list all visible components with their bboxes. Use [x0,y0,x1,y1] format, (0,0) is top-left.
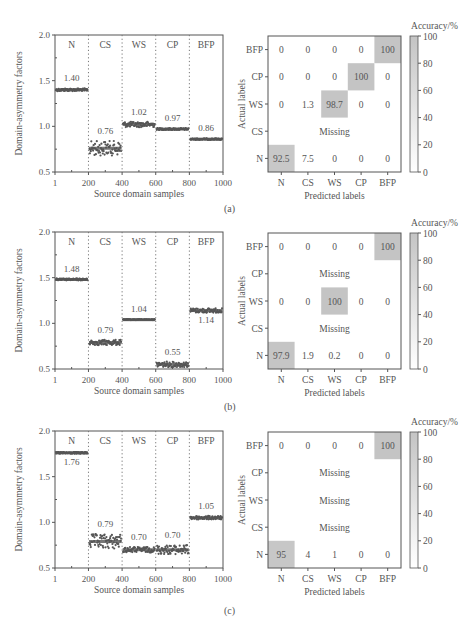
y-tick-label: 1.0 [39,517,51,527]
heatmap-cell-value: 98.7 [326,100,343,110]
segment-name-label: N [68,40,75,50]
segment-name-label: BFP [198,436,215,446]
colorbar-tick-label: 40 [423,113,433,123]
y-tick-label: 1.0 [39,318,51,328]
heatmap-cell-value: 100 [354,72,369,82]
y-tick-label: 2.0 [39,426,51,436]
heatmap-cell-value: 0 [385,351,390,361]
confusion-matrix-b: 0000100BFPMissingCP0010000WSMissingCS97.… [237,218,458,398]
y-category-label: CP [251,468,263,478]
heatmap-cell-value: 0 [359,550,364,560]
x-category-label: N [278,375,285,385]
x-tick-label: 1000 [214,574,233,584]
segment-value-label: 0.70 [131,532,147,542]
x-category-label: CS [302,375,314,385]
colorbar: 020406080100Accuracy/% [410,218,458,375]
y-category-label: WS [249,297,263,307]
x-axis-label: Predicted labels [304,388,365,398]
segment-name-label: CS [99,237,111,247]
segment-value-label: 0.55 [165,347,181,357]
y-category-label: WS [249,496,263,506]
segment-value-label: 1.02 [131,107,147,117]
segment-value-label: 0.79 [97,519,113,529]
heatmap-cell-value: 0 [306,72,311,82]
segment-value-label: 1.48 [64,264,80,274]
colorbar-tick-label: 20 [423,536,433,546]
heatmap-cell-value: 0 [385,72,390,82]
y-category-label: BFP [246,441,263,451]
heatmap-cell-value: 97.9 [273,351,290,361]
x-tick-label: 400 [115,574,129,584]
x-tick-label: 800 [183,375,197,385]
missing-row-label: Missing [319,127,350,137]
heatmap-cell-value: 1 [332,550,337,560]
heatmap-cell-value: 0 [332,441,337,451]
colorbar-tick-label: 20 [423,140,433,150]
missing-row-label: Missing [319,324,350,334]
x-category-label: WS [327,178,341,188]
x-axis-label: Source domain samples [94,386,185,396]
y-category-label: BFP [246,45,263,55]
heatmap-cell-value: 0 [385,297,390,307]
heatmap-cell-value: 0.2 [329,351,341,361]
heatmap-cell-value: 0 [332,45,337,55]
scatter-points-cs [88,140,122,157]
scatter-points-cp [156,361,190,369]
x-tick-label: 1 [53,375,58,385]
segment-value-label: 1.76 [64,457,80,467]
colorbar-tick-label: 0 [423,168,428,178]
x-tick-label: 400 [115,178,129,188]
scatter-chart-a: 0.51.01.52.012004006008001000Source doma… [14,30,233,199]
scatter-points-n [55,278,89,282]
heatmap-cell-value: 0 [359,100,364,110]
heatmap-cell-value: 4 [306,550,311,560]
heatmap-cell-value: 92.5 [273,154,290,164]
heatmap-cell-value: 0 [385,154,390,164]
x-tick-label: 800 [183,178,197,188]
colorbar: 020406080100Accuracy/% [410,21,458,178]
y-category-label: N [256,154,263,164]
heatmap-cell-value: 0 [279,72,284,82]
scatter-points-cs [88,339,122,347]
y-category-label: WS [249,100,263,110]
segment-name-label: BFP [198,40,215,50]
scatter-points-cs [88,533,122,550]
y-tick-label: 1.5 [39,472,51,482]
panel-label-a: (a) [224,203,235,214]
y-category-label: CP [251,72,263,82]
heatmap-cell-value: 0 [359,297,364,307]
segment-value-label: 1.14 [198,315,214,325]
colorbar-tick-label: 80 [423,455,433,465]
heatmap-cell-value: 0 [359,441,364,451]
x-tick-label: 1000 [214,178,233,188]
x-category-label: CP [355,178,367,188]
segment-name-label: WS [132,436,146,446]
heatmap-cell-value: 0 [359,242,364,252]
y-tick-label: 0.5 [39,364,51,374]
y-axis-label: Domain-asymmetry factors [14,248,24,353]
heatmap-cell-value: 1.3 [302,100,314,110]
scatter-points-ws [122,546,156,554]
y-tick-label: 0.5 [39,167,51,177]
x-category-label: WS [327,375,341,385]
y-axis-label: Actual labels [237,79,247,129]
segment-name-label: WS [132,40,146,50]
scatter-points-bfp [189,307,223,314]
segment-name-label: N [68,237,75,247]
colorbar: 020406080100Accuracy/% [410,417,458,574]
panel-label-b: (b) [224,401,236,412]
plot-frame [55,232,223,369]
plot-frame [55,35,223,172]
y-category-label: CS [251,127,263,137]
segment-value-label: 0.86 [198,123,214,133]
x-tick-label: 600 [149,178,163,188]
colorbar-tick-label: 60 [423,283,433,293]
segment-value-label: 1.05 [198,501,214,511]
x-tick-label: 400 [115,375,129,385]
scatter-points-ws [122,121,156,129]
x-tick-label: 600 [149,375,163,385]
y-tick-label: 0.5 [39,563,51,573]
scatter-points-cp [156,127,190,131]
x-category-label: N [278,574,285,584]
heatmap-cell-value: 1.9 [302,351,314,361]
